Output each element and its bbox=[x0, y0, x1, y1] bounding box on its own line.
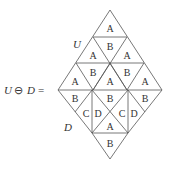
tile-label: A bbox=[71, 76, 79, 87]
equals-sign: = bbox=[38, 84, 44, 96]
equation-label: U ⊖ D = bbox=[4, 84, 44, 96]
tile-label: A bbox=[106, 76, 114, 87]
tile-label: B bbox=[142, 93, 149, 104]
tile-label: B bbox=[107, 41, 114, 52]
tile-label: A bbox=[106, 23, 114, 34]
tile-label: A bbox=[89, 50, 97, 61]
var-u: U bbox=[4, 84, 13, 96]
tile-label: D bbox=[94, 108, 101, 119]
tile-label: B bbox=[107, 138, 114, 149]
tile-label: B bbox=[124, 67, 131, 78]
tile-label: B bbox=[107, 93, 114, 104]
tile-label: B bbox=[90, 67, 97, 78]
tile-label: A bbox=[141, 76, 149, 87]
upper-tile-labels: A A B A A B A B A bbox=[71, 23, 149, 87]
tile-label: C bbox=[83, 108, 90, 119]
upper-label: U bbox=[73, 38, 82, 50]
tile-label: B bbox=[72, 93, 79, 104]
lower-label: D bbox=[63, 121, 72, 133]
tile-label: A bbox=[106, 121, 114, 132]
tiling-diagram: U ⊖ D = U D A A B A A B A B A bbox=[0, 0, 169, 170]
tile-label: C bbox=[119, 108, 126, 119]
tile-label: D bbox=[130, 108, 137, 119]
operator-symbol: ⊖ bbox=[14, 84, 23, 96]
tile-label: A bbox=[123, 50, 131, 61]
var-d: D bbox=[26, 84, 35, 96]
